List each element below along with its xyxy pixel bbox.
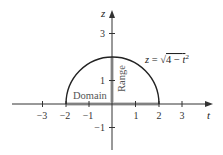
t-axis-label: t	[207, 109, 211, 121]
t-tick-label: 2	[157, 110, 162, 121]
z-axis-arrow-icon	[109, 10, 115, 18]
t-tick-label: −1	[83, 110, 94, 121]
function-diagram: −3 −2 −1 1 2 3 3 1 −1 t z z = √4 − t2 Do…	[0, 0, 223, 155]
range-label: Range	[116, 65, 127, 92]
domain-label: Domain	[73, 90, 108, 101]
z-axis-label: z	[100, 7, 106, 19]
t-tick-label: 3	[180, 110, 185, 121]
t-tick-label: −3	[37, 110, 48, 121]
t-tick-label: 1	[134, 110, 139, 121]
equation-label: z = √4 − t2	[144, 53, 189, 65]
t-tick-label: −2	[60, 110, 71, 121]
t-axis-arrow-icon	[205, 101, 213, 107]
z-tick-label: −1	[94, 122, 105, 133]
z-tick-label: 3	[100, 28, 105, 39]
z-tick-label: 1	[100, 75, 105, 86]
